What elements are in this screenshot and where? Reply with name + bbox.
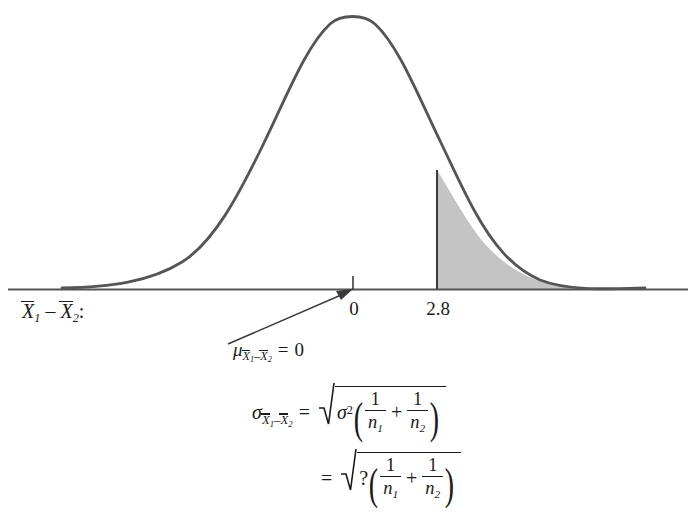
radicand-paren-close: ) <box>445 467 454 502</box>
fraction-one-over-n1: 1n1 <box>365 390 386 435</box>
radical-sign-icon <box>318 380 335 434</box>
axis-caption-minus: – <box>40 300 60 322</box>
radicand-paren-open: ( <box>369 467 378 502</box>
distribution-diagram: X1–X2: 0 2.8 μX1–X2=0 σX1–X2=σ2(1n1+1n2)… <box>0 0 696 521</box>
sigma-sub-x2: X <box>280 413 288 428</box>
axis-caption-x2: X <box>60 300 72 323</box>
radicand-plus: + <box>402 467 421 489</box>
denominator-n: n <box>425 478 434 498</box>
radicand-plus: + <box>387 401 406 423</box>
denominator-index: 1 <box>392 488 398 500</box>
sigma-subscript-group: X1–X2 <box>262 413 293 429</box>
sigma-line2-radical: ?(1n1+1n2) <box>340 448 461 502</box>
sigma-line2-radicand: ?(1n1+1n2) <box>357 452 461 502</box>
mu-sub-x2: X <box>260 349 267 364</box>
denominator-index: 2 <box>419 422 425 434</box>
fraction-one-over-n2: 1n2 <box>422 456 443 501</box>
radicand-sigma-exponent: 2 <box>347 403 353 417</box>
sigma-sub-x1: X <box>262 413 270 428</box>
mu-annotation: μX1–X2=0 <box>233 339 304 365</box>
fraction-denominator: n2 <box>407 411 428 434</box>
fraction-numerator: 1 <box>365 390 386 411</box>
denominator-index: 2 <box>435 488 441 500</box>
fraction-denominator: n2 <box>422 477 443 500</box>
radicand-sigma: σ <box>337 401 347 423</box>
sigma-formula-line-1: σX1–X2=σ2(1n1+1n2) <box>252 382 446 436</box>
sigma-formula-line-2: =?(1n1+1n2) <box>315 448 461 502</box>
fraction-one-over-n1: 1n1 <box>380 456 401 501</box>
denominator-n: n <box>368 412 377 432</box>
fraction-numerator: 1 <box>407 390 428 411</box>
normal-curve-graphic <box>0 0 696 521</box>
sigma-equals: = <box>293 401 316 423</box>
radicand-paren-open: ( <box>354 401 363 436</box>
upper-tail-shaded-area <box>437 170 645 289</box>
sigma-line2-equals: = <box>315 467 338 489</box>
axis-caption-colon: : <box>79 300 85 322</box>
axis-caption-x1: X <box>22 300 34 323</box>
mu-equals: = <box>272 339 295 360</box>
fraction-numerator: 1 <box>380 456 401 477</box>
radicand-paren-close: ) <box>430 401 439 436</box>
fraction-denominator: n1 <box>380 477 401 500</box>
radicand-unknown-placeholder: ? <box>359 467 368 489</box>
denominator-n: n <box>410 412 419 432</box>
sigma-sub-x2-index: 2 <box>288 418 292 428</box>
tick-label-critical: 2.8 <box>418 298 458 320</box>
bell-curve-path <box>62 17 645 289</box>
fraction-numerator: 1 <box>422 456 443 477</box>
radical-sign-icon <box>340 446 357 500</box>
mu-sub-x1: X <box>243 349 250 364</box>
axis-caption: X1–X2: <box>22 300 84 326</box>
fraction-denominator: n1 <box>365 411 386 434</box>
sigma-radical: σ2(1n1+1n2) <box>318 382 446 436</box>
sigma-radicand: σ2(1n1+1n2) <box>335 386 446 436</box>
denominator-n: n <box>383 478 392 498</box>
tick-label-mean: 0 <box>343 298 365 320</box>
mu-subscript-group: X1–X2 <box>243 349 272 364</box>
mu-value: 0 <box>294 339 304 360</box>
denominator-index: 1 <box>377 422 383 434</box>
fraction-one-over-n2: 1n2 <box>407 390 428 435</box>
mu-pointer-arrow-line <box>228 292 348 344</box>
